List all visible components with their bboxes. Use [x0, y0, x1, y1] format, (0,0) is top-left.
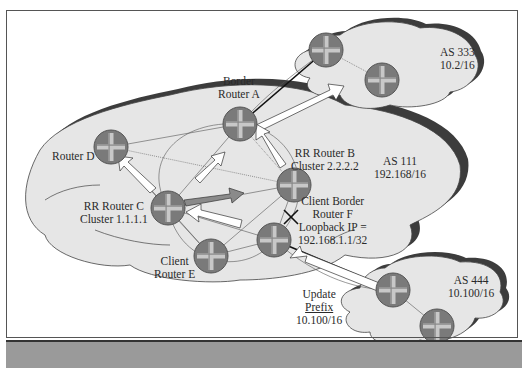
- as333-prefix: 10.2/16: [440, 59, 475, 72]
- as444-prefix: 10.100/16: [448, 287, 494, 300]
- as333-router-1-icon[interactable]: [309, 33, 343, 67]
- update-label-line3: 10.100/16: [296, 314, 342, 327]
- as111-prefix: 192.168/16: [374, 168, 426, 181]
- router-a-label-line2: Router A: [218, 88, 260, 101]
- router-d-icon[interactable]: [94, 130, 128, 164]
- router-e-icon[interactable]: [194, 239, 228, 273]
- as111-name: AS 111: [374, 155, 426, 168]
- footer-bar: [6, 340, 522, 368]
- router-c-icon[interactable]: [151, 191, 185, 225]
- as444-router-1-icon[interactable]: [376, 273, 410, 307]
- as444-label: AS 444 10.100/16: [448, 274, 494, 300]
- as333-router-2-icon[interactable]: [365, 63, 399, 97]
- router-d-label: Router D: [52, 150, 94, 163]
- router-f-icon[interactable]: [257, 223, 291, 257]
- router-a-label: Border Router A: [218, 75, 260, 101]
- router-e-label-line1: Client: [154, 255, 195, 268]
- router-f-label-line1: Client Border: [298, 195, 367, 208]
- as444-name: AS 444: [448, 274, 494, 287]
- update-prefix-label: Update Prefix 10.100/16: [296, 288, 342, 327]
- router-f-label-line2: Router F: [298, 208, 367, 221]
- update-label-line2: Prefix: [296, 301, 342, 314]
- router-b-label-line1: RR Router B: [291, 147, 359, 160]
- router-c-label-line1: RR Router C: [80, 200, 148, 213]
- router-c-label: RR Router C Cluster 1.1.1.1: [80, 200, 148, 226]
- router-e-label-line2: Router E: [154, 268, 195, 281]
- update-label-line1: Update: [296, 288, 342, 301]
- router-d-label-line1: Router D: [52, 150, 94, 163]
- router-a-icon[interactable]: [223, 107, 257, 141]
- router-f-label: Client Border Router F Loopback IP = 192…: [298, 195, 367, 247]
- as444-router-2-icon[interactable]: [420, 309, 454, 343]
- router-c-label-line2: Cluster 1.1.1.1: [80, 213, 148, 226]
- as333-label: AS 333 10.2/16: [440, 46, 475, 72]
- router-b-label: RR Router B Cluster 2.2.2.2: [291, 147, 359, 173]
- router-a-label-line1: Border: [218, 75, 260, 88]
- as333-name: AS 333: [440, 46, 475, 59]
- router-e-label: Client Router E: [154, 255, 195, 281]
- as111-label: AS 111 192.168/16: [374, 155, 426, 181]
- router-f-label-line3: Loopback IP =: [298, 221, 367, 234]
- router-b-label-line2: Cluster 2.2.2.2: [291, 160, 359, 173]
- router-f-label-line4: 192.168.1.1/32: [298, 234, 367, 247]
